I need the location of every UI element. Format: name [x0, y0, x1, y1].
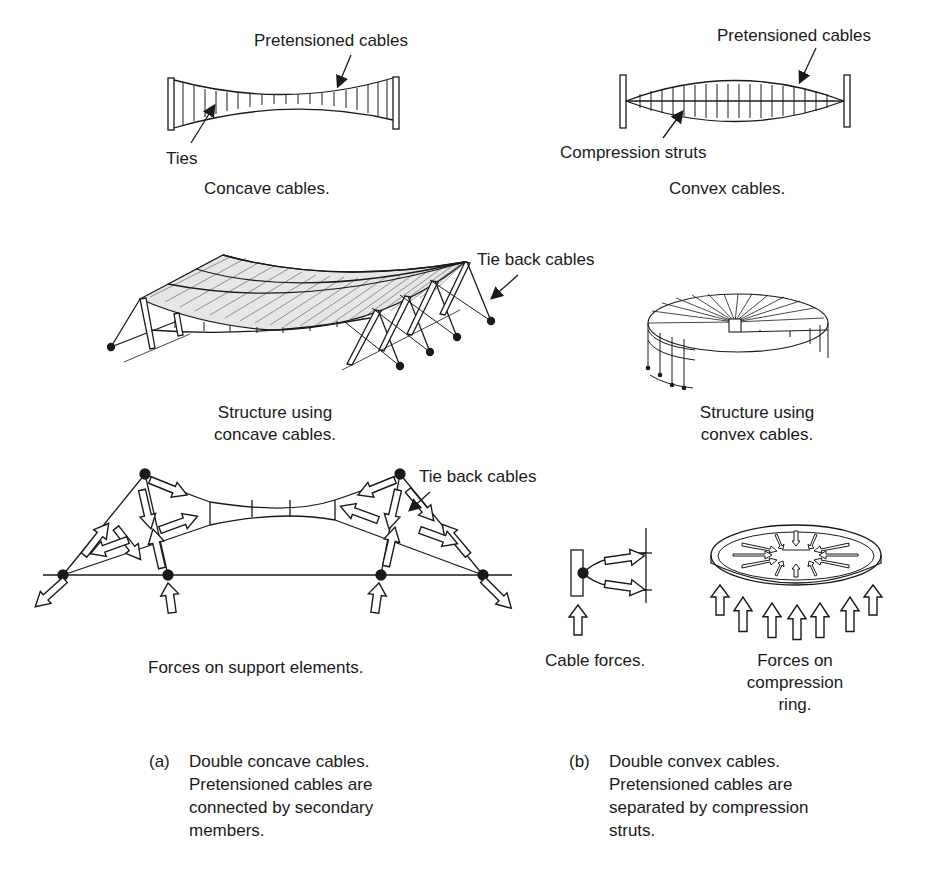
label-pretensioned-cables-convex: Pretensioned cables	[717, 25, 871, 47]
note-b: (b) Double convex cables. Pretensioned c…	[569, 750, 869, 850]
note-a-line: members.	[189, 819, 373, 842]
convex-structure-drawing	[646, 294, 828, 390]
note-b-line: Pretensioned cables are	[609, 773, 808, 796]
caption-line: ring.	[700, 694, 890, 716]
caption-line: Forces on	[700, 650, 890, 672]
caption-line: convex cables.	[672, 424, 842, 446]
support-forces-diagram	[30, 469, 517, 614]
note-a-tag: (a)	[149, 750, 170, 773]
caption-forces-support: Forces on support elements.	[148, 657, 363, 679]
caption-concave-cables: Concave cables.	[204, 178, 330, 200]
concave-structure-drawing	[108, 255, 519, 370]
note-b-tag: (b)	[569, 750, 590, 773]
note-b-line: struts.	[609, 819, 808, 842]
note-a-line: Pretensioned cables are	[189, 773, 373, 796]
note-a: (a) Double concave cables. Pretensioned …	[149, 750, 429, 850]
label-tie-back-cables-structure: Tie back cables	[477, 249, 594, 271]
convex-cables-diagram	[620, 48, 850, 138]
caption-convex-cables: Convex cables.	[669, 178, 785, 200]
note-a-line: Double concave cables.	[189, 750, 373, 773]
label-compression-struts: Compression struts	[560, 142, 706, 164]
compression-ring-diagram	[711, 525, 882, 640]
caption-line: concave cables.	[190, 424, 360, 446]
label-pretensioned-cables-concave: Pretensioned cables	[254, 30, 408, 52]
label-ties: Ties	[166, 148, 198, 170]
cable-forces-diagram	[569, 528, 652, 635]
note-b-line: Double convex cables.	[609, 750, 808, 773]
note-a-line: connected by secondary	[189, 796, 373, 819]
label-tie-back-cables-forces: Tie back cables	[419, 466, 536, 488]
caption-line: Structure using	[190, 402, 360, 424]
caption-line: Structure using	[672, 402, 842, 424]
concave-cables-diagram	[168, 55, 399, 143]
caption-structure-concave: Structure using concave cables.	[190, 402, 360, 446]
caption-cable-forces: Cable forces.	[545, 650, 645, 672]
caption-structure-convex: Structure using convex cables.	[672, 402, 842, 446]
note-b-line: separated by compression	[609, 796, 808, 819]
caption-compression-ring: Forces on compression ring.	[700, 650, 890, 716]
caption-line: compression	[700, 672, 890, 694]
